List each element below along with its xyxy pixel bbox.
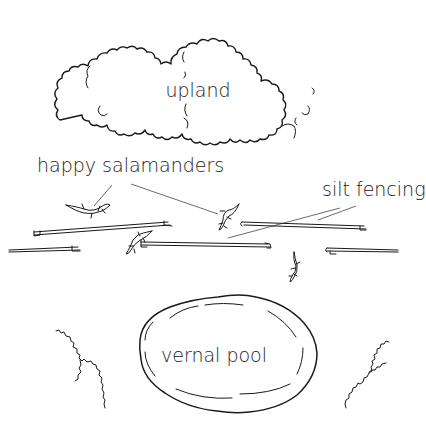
salamander-4 — [289, 252, 300, 282]
silt-fence-2 — [9, 246, 80, 252]
salamander-1 — [66, 204, 110, 218]
vernal-pool-label: vernal pool — [161, 344, 267, 366]
vernal-pool-diagram: upland happy salamanders silt fencing — [0, 0, 426, 442]
shrub-right — [345, 341, 389, 408]
upland-label: upland — [165, 79, 230, 101]
silt-fence-5 — [326, 248, 399, 254]
silt-fence-4 — [241, 222, 367, 230]
salamanders-leader-left — [94, 185, 112, 206]
salamanders-label: happy salamanders — [37, 154, 224, 176]
silt-fence-1 — [34, 221, 172, 236]
shrub-left — [56, 330, 105, 408]
silt-fencing-leader-right — [318, 206, 356, 220]
salamander-2 — [219, 204, 239, 230]
salamanders-leader-right — [131, 184, 218, 214]
silt-fencing-label: silt fencing — [322, 178, 426, 200]
silt-fence-3 — [141, 240, 271, 248]
